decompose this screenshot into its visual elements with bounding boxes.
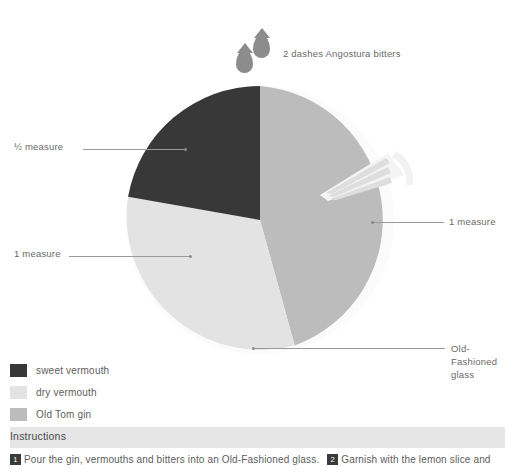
legend-item-sweet-vermouth[interactable]: sweet vermouth (10, 361, 109, 379)
pie-slice-sweet-vermouth[interactable] (128, 86, 260, 220)
legend-swatch (10, 408, 27, 421)
instructions-title: Instructions (10, 430, 66, 442)
pie-chart-svg (125, 85, 395, 355)
leader-line-sweet-vermouth (83, 149, 186, 150)
step-text: Pour the gin, vermouths and bitters into… (24, 454, 319, 465)
legend-swatch (10, 364, 27, 377)
pie-chart (125, 85, 395, 355)
callout-gin-measure: 1 measure (449, 215, 496, 228)
legend-item-old-tom-gin[interactable]: Old Tom gin (10, 405, 109, 423)
instructions-body: 1Pour the gin, vermouths and bitters int… (10, 452, 505, 468)
step-number-badge: 2 (327, 454, 338, 465)
infographic-canvas: 2 dashes Angostura bitters ½ measure 1 m… (0, 0, 515, 476)
lemon-slice-garnish (318, 145, 418, 213)
drop-icon (236, 50, 253, 73)
step-number-badge: 1 (10, 454, 21, 465)
leader-line-gin (372, 222, 444, 223)
bitters-drops-icon (233, 33, 279, 73)
chart-legend: sweet vermouth dry vermouth Old Tom gin (10, 361, 109, 427)
callout-glass: Old-Fashioned glass (451, 342, 515, 381)
legend-label: sweet vermouth (36, 365, 109, 376)
step-text: Garnish with the lemon slice and (341, 454, 490, 465)
callout-dry-vermouth-measure: 1 measure (14, 247, 61, 260)
legend-swatch (10, 386, 27, 399)
drop-icon (253, 35, 270, 58)
legend-label: Old Tom gin (36, 409, 91, 420)
legend-item-dry-vermouth[interactable]: dry vermouth (10, 383, 109, 401)
leader-line-glass (253, 348, 445, 349)
callout-bitters: 2 dashes Angostura bitters (283, 47, 401, 60)
legend-label: dry vermouth (36, 387, 97, 398)
callout-sweet-vermouth-measure: ½ measure (14, 140, 63, 153)
instructions-header-bar (10, 427, 505, 448)
leader-line-dry-vermouth (69, 256, 191, 257)
